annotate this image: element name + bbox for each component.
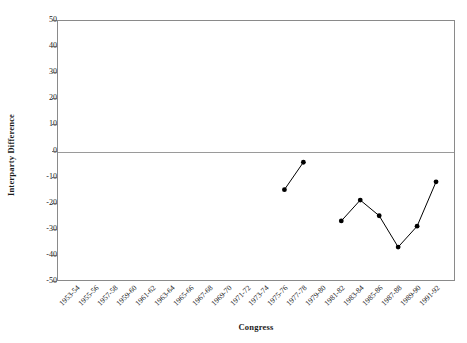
x-axis-title: Congress xyxy=(57,322,455,332)
chart-container: Interparty Difference 50403020100-10-20-… xyxy=(0,0,467,343)
x-axis-tick-labels: 1953-541955-561957-581959-601961-621963-… xyxy=(0,0,467,343)
